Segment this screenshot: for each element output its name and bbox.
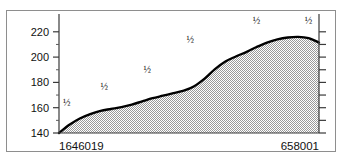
- x-axis-right-label: 658001: [281, 140, 319, 152]
- x-axis-left-label: 1646019: [59, 140, 104, 152]
- curve-annotation-label: ½: [63, 97, 71, 108]
- curve-annotation-label: ½: [253, 15, 261, 26]
- y-tick-label: 180: [31, 76, 49, 88]
- chart-figure: 140160180200220 ½½½½½½ 1646019 658001: [0, 0, 344, 162]
- y-tick-label: 140: [31, 127, 49, 139]
- y-tick-label: 160: [31, 102, 49, 114]
- area-chart-plot: 140160180200220 ½½½½½½ 1646019 658001: [0, 0, 344, 162]
- area-fill: [59, 37, 319, 133]
- curve-annotation-label: ½: [305, 15, 313, 26]
- y-axis-tick-labels: 140160180200220: [31, 26, 49, 139]
- y-axis-right-ticks: [319, 32, 326, 133]
- plot-area: [59, 37, 319, 133]
- curve-annotation-label: ½: [101, 81, 109, 92]
- curve-annotation-label: ½: [144, 64, 152, 75]
- y-axis-left-ticks: [53, 32, 59, 133]
- curve-annotation-label: ½: [186, 34, 194, 45]
- y-tick-label: 200: [31, 51, 49, 63]
- y-tick-label: 220: [31, 26, 49, 38]
